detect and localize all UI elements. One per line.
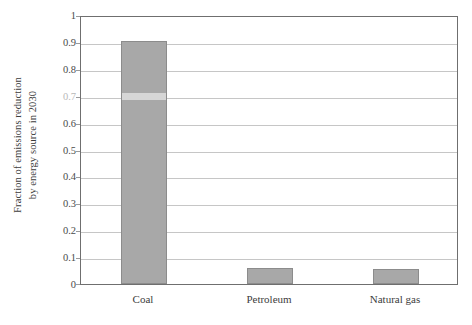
y-axis-tick-label: 0.3	[50, 199, 76, 209]
y-axis-tick-label: 0	[50, 280, 76, 290]
y-axis-tick-label: 0.1	[50, 253, 76, 263]
bar[interactable]	[247, 268, 293, 284]
x-axis-tick-label: Coal	[133, 292, 154, 306]
y-axis-title-line-1: Fraction of emissions reduction	[10, 77, 25, 213]
y-axis-tick-label: 0.4	[50, 172, 76, 182]
y-axis-tick-label: 0.8	[50, 65, 76, 75]
x-axis-tick-label: Natural gas	[370, 292, 420, 306]
bar-chart-figure: Fraction of emissions reduction by energ…	[0, 0, 472, 325]
bar[interactable]	[373, 269, 419, 284]
bar-highlight-band	[122, 93, 166, 100]
y-axis-tick-label: 0.7	[50, 92, 76, 102]
y-axis-tick-label: 0.2	[50, 226, 76, 236]
plot-area	[80, 16, 458, 285]
y-axis-tick-label: 1	[50, 11, 76, 21]
x-axis-tick-labels: CoalPetroleumNatural gas	[80, 292, 458, 312]
y-axis-tick-label: 0.6	[50, 119, 76, 129]
y-axis-tick-label: 0.5	[50, 146, 76, 156]
y-axis-tick-labels: 00.10.20.30.40.50.60.70.80.91	[50, 16, 76, 285]
y-axis-title: Fraction of emissions reduction by energ…	[0, 0, 50, 290]
y-axis-title-line-2: by energy source in 2030	[25, 77, 40, 213]
x-axis-tick-label: Petroleum	[246, 292, 291, 306]
bar[interactable]	[121, 41, 167, 284]
y-axis-tick-label: 0.9	[50, 38, 76, 48]
